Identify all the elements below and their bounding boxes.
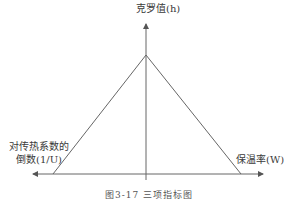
left-axis-label-line2: 倒数(1/U) [8,153,70,166]
y-axis-label: 克罗值(h) [136,2,180,15]
left-axis-label: 对传热系数的 倒数(1/U) [8,140,70,166]
right-axis-label: 保温率(W) [236,153,284,166]
left-axis-label-line1: 对传热系数的 [8,140,70,153]
right-diagonal-line [146,55,241,174]
figure-caption: 图3-17 三项指标图 [105,189,193,199]
diagram-canvas [0,0,298,199]
